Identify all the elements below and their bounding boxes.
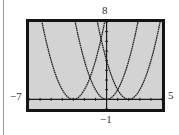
parabola-curve-1 <box>29 22 162 99</box>
graph-plot <box>29 22 162 109</box>
ymin-label: −1 <box>100 114 112 125</box>
calculator-graph-screen <box>26 19 165 112</box>
parabola-curve-3 <box>29 22 162 99</box>
xmax-label: 5 <box>168 90 174 101</box>
curves <box>29 22 162 99</box>
page-margin-rule <box>3 0 4 135</box>
parabola-curve-2 <box>29 22 162 99</box>
xmin-label: −7 <box>10 91 22 102</box>
ymax-label: 8 <box>102 5 108 16</box>
axes <box>29 22 162 109</box>
